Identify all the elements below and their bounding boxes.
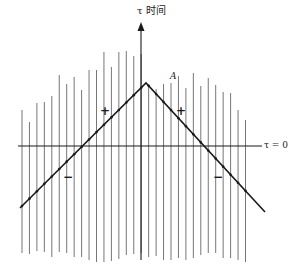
intersection-dot: [222, 165, 225, 168]
intersection-dot: [170, 109, 173, 112]
intersection-dot: [244, 190, 247, 193]
intersection-dot: [58, 168, 61, 171]
intersection-dot: [185, 125, 188, 128]
intersection-dot: [103, 123, 106, 126]
intersection-dot: [207, 149, 210, 152]
intersection-dot: [21, 205, 24, 208]
intersection-dot: [192, 133, 195, 136]
intersection-dot: [73, 153, 76, 156]
intersection-dot: [140, 86, 143, 89]
spacetime-diagram: τ 时间 A τ = 0 + + − −: [0, 0, 300, 276]
intersection-dot: [132, 94, 135, 97]
intersection-dot: [125, 101, 128, 104]
plus-sign-left: +: [100, 104, 110, 118]
plus-sign-right: +: [176, 104, 186, 118]
minus-sign-left: −: [63, 170, 73, 184]
intersection-dot: [147, 85, 150, 88]
intersection-dot: [51, 175, 54, 178]
vertex-label: A: [170, 71, 177, 81]
intersection-dot: [65, 160, 68, 163]
diagram-canvas: [0, 0, 300, 276]
intersection-dot: [80, 146, 83, 149]
world-lines: [22, 51, 246, 262]
intersection-dot: [118, 109, 121, 112]
intersection-dot: [162, 101, 165, 104]
minus-sign-right: −: [213, 170, 223, 184]
intersection-dot: [155, 93, 158, 96]
intersection-dot: [200, 141, 203, 144]
intersection-dot: [229, 173, 232, 176]
time-axis-label: τ 时间: [137, 2, 166, 17]
intersection-dot: [88, 138, 91, 141]
kinked-line: [20, 83, 265, 212]
intersection-dot: [237, 181, 240, 184]
intersection-dot: [95, 131, 98, 134]
tau-zero-label: τ = 0: [264, 140, 288, 150]
intersection-dot: [28, 197, 31, 200]
intersection-dot: [214, 157, 217, 160]
time-axis-arrow-icon: [138, 22, 145, 31]
intersection-dot: [36, 190, 39, 193]
intersection-dot: [43, 183, 46, 186]
intersection-dot: [110, 116, 113, 119]
